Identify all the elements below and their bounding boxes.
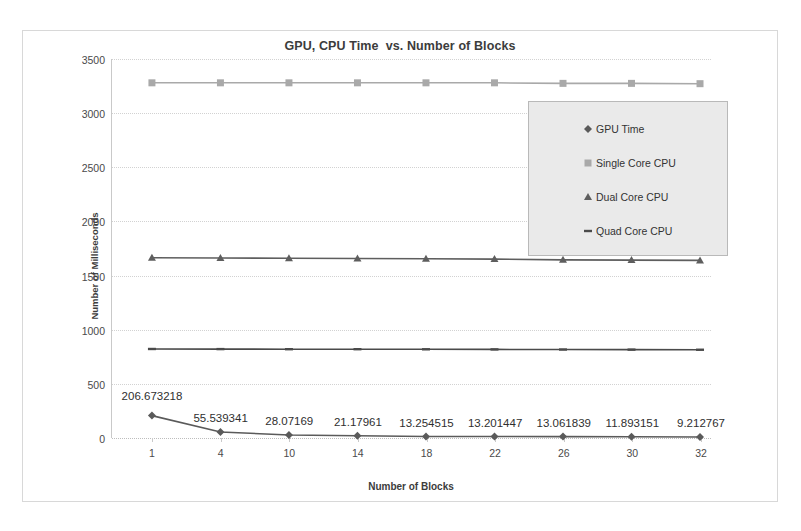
legend-item-quad-core-cpu[interactable]: Quad Core CPU xyxy=(581,214,727,248)
y-tick-label: 2500 xyxy=(82,162,105,174)
data-point-square xyxy=(628,80,635,87)
data-point-diamond xyxy=(422,433,430,441)
triangle-marker-icon xyxy=(581,191,595,203)
data-point-square xyxy=(148,79,155,86)
data-point-line xyxy=(285,348,293,350)
data-label: 21.17961 xyxy=(334,416,382,428)
data-point-line xyxy=(148,348,156,350)
data-point-diamond xyxy=(559,433,567,441)
line-marker-icon xyxy=(581,225,595,237)
x-axis-title: Number of Blocks xyxy=(111,481,711,492)
data-label: 28.07169 xyxy=(265,415,313,427)
x-tick-mark xyxy=(152,438,153,442)
y-tick-label: 3500 xyxy=(82,54,105,66)
data-point-square xyxy=(491,79,498,86)
y-tick-label: 1000 xyxy=(82,325,105,337)
x-tick-label: 22 xyxy=(489,447,501,459)
data-point-line xyxy=(353,348,361,350)
chart-legend: GPU TimeSingle Core CPUDual Core CPUQuad… xyxy=(528,101,728,256)
data-point-line xyxy=(422,348,430,350)
legend-item-gpu-time[interactable]: GPU Time xyxy=(581,112,727,146)
y-tick-label: 2000 xyxy=(82,216,105,228)
data-point-line xyxy=(628,348,636,350)
series-quad-core-cpu xyxy=(148,348,704,351)
legend-item-label: Quad Core CPU xyxy=(596,225,672,237)
x-tick-label: 32 xyxy=(695,447,707,459)
data-point-square xyxy=(560,80,567,87)
x-tick-label: 1 xyxy=(149,447,155,459)
y-axis-title: Number of Milliseconds xyxy=(89,212,100,319)
data-point-diamond xyxy=(285,431,293,439)
data-point-square xyxy=(585,160,592,167)
data-label: 13.254515 xyxy=(399,417,453,429)
legend-item-label: GPU Time xyxy=(596,123,644,135)
data-point-diamond xyxy=(490,433,498,441)
data-label: 13.061839 xyxy=(537,417,591,429)
data-point-line xyxy=(216,348,224,350)
x-tick-label: 18 xyxy=(421,447,433,459)
x-tick-label: 26 xyxy=(558,447,570,459)
x-tick-label: 10 xyxy=(283,447,295,459)
data-point-diamond xyxy=(216,428,224,436)
y-tick-label: 3000 xyxy=(82,108,105,120)
data-label: 9.212767 xyxy=(677,417,725,429)
data-point-square xyxy=(354,79,361,86)
data-point-line xyxy=(559,348,567,350)
diamond-marker-icon xyxy=(581,123,595,135)
data-label: 11.893151 xyxy=(606,417,660,429)
data-point-line xyxy=(696,349,704,351)
y-tick-label: 0 xyxy=(99,433,105,445)
data-point-square xyxy=(217,79,224,86)
data-point-triangle xyxy=(584,193,592,200)
legend-item-label: Single Core CPU xyxy=(596,157,676,169)
chart-title: GPU, CPU Time vs. Number of Blocks xyxy=(23,39,777,53)
data-point-diamond xyxy=(696,433,704,441)
chart-frame: GPU, CPU Time vs. Number of Blocks Numbe… xyxy=(22,30,778,502)
x-tick-label: 4 xyxy=(218,447,224,459)
data-label: 55.539341 xyxy=(193,412,247,424)
data-point-diamond xyxy=(628,433,636,441)
x-tick-label: 14 xyxy=(352,447,364,459)
y-tick-label: 500 xyxy=(87,379,105,391)
data-point-square xyxy=(285,79,292,86)
legend-item-label: Dual Core CPU xyxy=(596,191,668,203)
x-tick-label: 30 xyxy=(627,447,639,459)
data-point-line xyxy=(584,230,592,232)
square-marker-icon xyxy=(581,157,595,169)
data-point-diamond xyxy=(584,125,592,133)
legend-item-single-core-cpu[interactable]: Single Core CPU xyxy=(581,146,727,180)
x-tick-mark xyxy=(289,438,290,442)
data-point-line xyxy=(490,348,498,350)
gridline: 0 xyxy=(112,438,711,439)
data-label: 206.673218 xyxy=(122,390,183,402)
x-tick-mark xyxy=(221,438,222,442)
legend-item-dual-core-cpu[interactable]: Dual Core CPU xyxy=(581,180,727,214)
series-single-core-cpu xyxy=(148,79,703,87)
data-point-square xyxy=(422,79,429,86)
data-label: 13.201447 xyxy=(468,417,522,429)
data-point-square xyxy=(697,80,704,87)
data-point-diamond xyxy=(148,412,156,420)
y-tick-label: 1500 xyxy=(82,271,105,283)
